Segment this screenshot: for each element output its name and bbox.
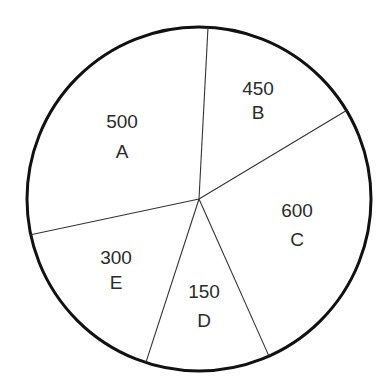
slice-value-label-c: 600: [281, 200, 313, 221]
pie-chart: 500A450B600C150D300E: [0, 0, 389, 386]
slice-value-label-a: 500: [106, 111, 138, 132]
slice-name-label-e: E: [110, 272, 123, 293]
slice-value-label-d: 150: [188, 281, 220, 302]
slice-name-label-b: B: [252, 102, 265, 123]
slice-name-label-c: C: [290, 229, 304, 250]
slice-name-label-a: A: [116, 141, 129, 162]
slice-value-label-e: 300: [100, 247, 132, 268]
slice-name-label-d: D: [197, 310, 211, 331]
slice-value-label-b: 450: [242, 78, 274, 99]
